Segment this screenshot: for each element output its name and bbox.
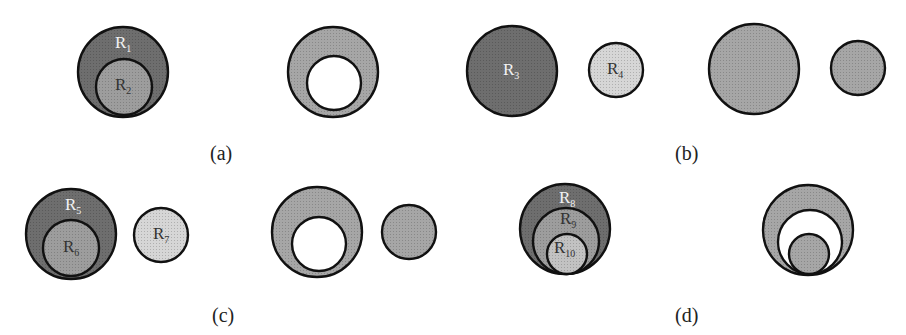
panel-a-input: R1 R2 [78, 27, 168, 117]
result-hole [307, 56, 361, 110]
caption-a: (a) [210, 142, 232, 165]
panel-b-input: R3 R4 [467, 26, 643, 116]
panel-b: R3 R4 (b) [467, 24, 885, 165]
panel-d-result [763, 185, 853, 275]
panel-a: R1 R2 (a) [78, 27, 378, 165]
panel-c: R5 R6 R7 (c) [26, 187, 436, 327]
panel-a-result [288, 27, 378, 117]
panel-d-input: R8 R9 R10 [520, 184, 610, 274]
caption-d: (d) [675, 304, 698, 327]
texture-overlay [831, 41, 885, 95]
panel-c-input: R5 R6 R7 [26, 189, 188, 279]
caption-c: (c) [212, 304, 234, 327]
texture-overlay [789, 234, 829, 274]
region-diagram: R1 R2 (a) R3 R4 (b) [0, 0, 906, 335]
caption-b: (b) [675, 142, 698, 165]
panel-c-result [272, 187, 436, 277]
result-hole [292, 217, 346, 271]
texture-overlay [382, 205, 436, 259]
panel-b-result [709, 24, 885, 114]
panel-d: R8 R9 R10 (d) [520, 184, 853, 327]
texture-overlay [709, 24, 799, 114]
